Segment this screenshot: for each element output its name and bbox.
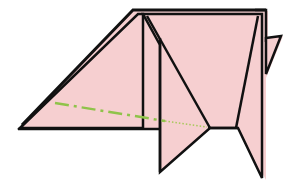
origami-diagram <box>0 0 295 184</box>
right-flap <box>266 36 281 74</box>
left-body <box>20 14 143 128</box>
origami-figure <box>0 0 295 184</box>
